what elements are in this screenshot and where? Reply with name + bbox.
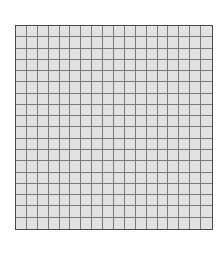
grid-cell[interactable]: [16, 26, 27, 37]
grid-cell[interactable]: [16, 161, 27, 172]
grid-cell[interactable]: [103, 139, 114, 150]
grid-cell[interactable]: [70, 139, 81, 150]
grid-cell[interactable]: [168, 105, 179, 116]
grid-cell[interactable]: [190, 49, 201, 60]
grid-cell[interactable]: [16, 127, 27, 138]
grid-cell[interactable]: [103, 206, 114, 217]
grid-cell[interactable]: [38, 49, 49, 60]
grid-cell[interactable]: [201, 26, 212, 37]
grid-cell[interactable]: [60, 127, 71, 138]
grid-cell[interactable]: [27, 150, 38, 161]
grid-cell[interactable]: [125, 150, 136, 161]
grid-cell[interactable]: [70, 184, 81, 195]
grid-cell[interactable]: [147, 218, 158, 229]
grid-cell[interactable]: [147, 206, 158, 217]
grid-cell[interactable]: [92, 139, 103, 150]
grid-cell[interactable]: [70, 150, 81, 161]
grid-cell[interactable]: [49, 195, 60, 206]
grid-cell[interactable]: [27, 94, 38, 105]
grid-cell[interactable]: [81, 82, 92, 93]
grid-cell[interactable]: [49, 139, 60, 150]
grid-cell[interactable]: [49, 173, 60, 184]
grid-cell[interactable]: [27, 139, 38, 150]
grid-cell[interactable]: [147, 184, 158, 195]
grid-cell[interactable]: [136, 116, 147, 127]
grid-cell[interactable]: [81, 71, 92, 82]
grid-cell[interactable]: [103, 37, 114, 48]
grid-cell[interactable]: [201, 150, 212, 161]
grid-cell[interactable]: [81, 116, 92, 127]
grid-cell[interactable]: [92, 184, 103, 195]
grid-cell[interactable]: [136, 37, 147, 48]
grid-cell[interactable]: [179, 127, 190, 138]
grid-cell[interactable]: [81, 218, 92, 229]
grid-cell[interactable]: [103, 105, 114, 116]
grid-cell[interactable]: [158, 49, 169, 60]
grid-cell[interactable]: [168, 150, 179, 161]
grid-cell[interactable]: [136, 150, 147, 161]
grid-cell[interactable]: [201, 37, 212, 48]
grid-cell[interactable]: [92, 94, 103, 105]
grid-cell[interactable]: [27, 116, 38, 127]
grid-cell[interactable]: [125, 82, 136, 93]
grid-cell[interactable]: [125, 173, 136, 184]
grid-cell[interactable]: [147, 105, 158, 116]
grid-cell[interactable]: [114, 150, 125, 161]
grid-cell[interactable]: [60, 49, 71, 60]
grid-cell[interactable]: [179, 105, 190, 116]
grid-cell[interactable]: [190, 71, 201, 82]
grid-cell[interactable]: [136, 94, 147, 105]
grid-cell[interactable]: [114, 173, 125, 184]
grid-cell[interactable]: [158, 82, 169, 93]
grid-cell[interactable]: [103, 116, 114, 127]
grid-cell[interactable]: [103, 161, 114, 172]
grid-cell[interactable]: [70, 26, 81, 37]
grid-cell[interactable]: [147, 82, 158, 93]
grid-cell[interactable]: [147, 37, 158, 48]
grid-cell[interactable]: [114, 206, 125, 217]
grid-cell[interactable]: [168, 206, 179, 217]
grid-cell[interactable]: [103, 218, 114, 229]
grid-cell[interactable]: [49, 184, 60, 195]
grid-cell[interactable]: [27, 195, 38, 206]
grid-cell[interactable]: [70, 161, 81, 172]
grid-cell[interactable]: [92, 49, 103, 60]
grid-cell[interactable]: [136, 195, 147, 206]
grid-cell[interactable]: [125, 127, 136, 138]
grid-cell[interactable]: [168, 116, 179, 127]
grid-cell[interactable]: [168, 127, 179, 138]
grid-cell[interactable]: [38, 218, 49, 229]
grid-cell[interactable]: [38, 184, 49, 195]
grid-cell[interactable]: [179, 150, 190, 161]
grid-cell[interactable]: [103, 94, 114, 105]
grid-cell[interactable]: [27, 37, 38, 48]
grid-cell[interactable]: [38, 127, 49, 138]
grid-cell[interactable]: [92, 195, 103, 206]
grid-cell[interactable]: [158, 26, 169, 37]
grid-cell[interactable]: [38, 105, 49, 116]
grid-cell[interactable]: [190, 150, 201, 161]
grid-cell[interactable]: [114, 82, 125, 93]
grid-cell[interactable]: [92, 82, 103, 93]
grid-cell[interactable]: [70, 116, 81, 127]
grid-cell[interactable]: [70, 206, 81, 217]
grid-cell[interactable]: [16, 206, 27, 217]
grid-cell[interactable]: [38, 60, 49, 71]
grid-cell[interactable]: [147, 26, 158, 37]
grid-cell[interactable]: [49, 49, 60, 60]
grid-cell[interactable]: [168, 94, 179, 105]
grid-cell[interactable]: [16, 71, 27, 82]
grid-cell[interactable]: [201, 116, 212, 127]
grid-cell[interactable]: [114, 105, 125, 116]
grid-cell[interactable]: [136, 26, 147, 37]
grid-cell[interactable]: [190, 195, 201, 206]
grid-cell[interactable]: [147, 49, 158, 60]
grid-cell[interactable]: [158, 161, 169, 172]
grid-cell[interactable]: [114, 94, 125, 105]
grid-cell[interactable]: [16, 82, 27, 93]
grid-cell[interactable]: [60, 60, 71, 71]
grid-cell[interactable]: [81, 184, 92, 195]
grid-cell[interactable]: [27, 161, 38, 172]
grid-cell[interactable]: [103, 71, 114, 82]
grid-cell[interactable]: [60, 37, 71, 48]
